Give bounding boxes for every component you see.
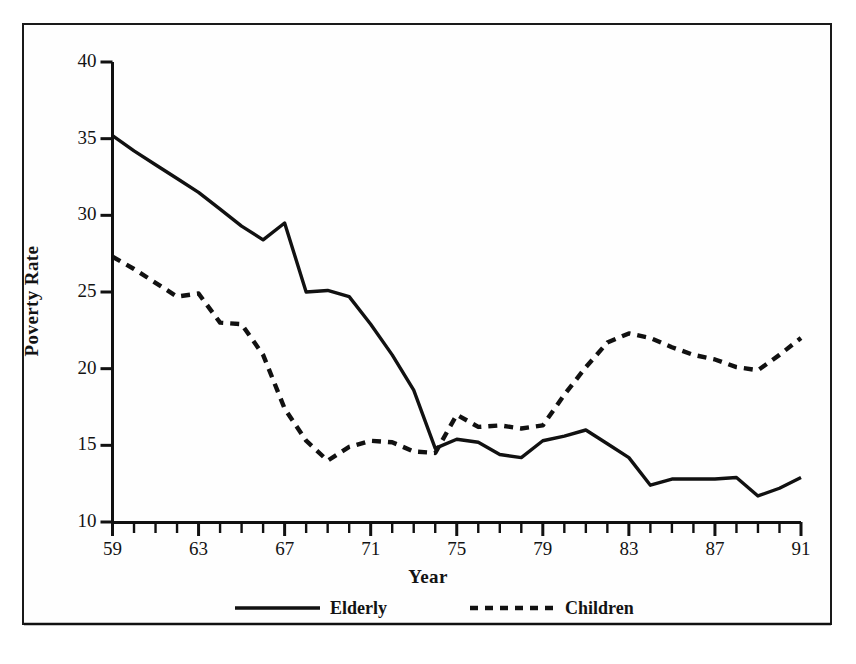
y-axis-ticks: [101, 62, 113, 522]
x-tick-label: 87: [692, 538, 738, 560]
y-tick-label: 15: [53, 433, 97, 455]
x-tick-label: 79: [520, 538, 566, 560]
legend-label-elderly: Elderly: [330, 598, 387, 619]
x-tick-label: 63: [176, 538, 222, 560]
y-axis-label: Poverty Rate: [21, 201, 43, 401]
y-tick-label: 10: [53, 510, 97, 532]
x-tick-label: 91: [778, 538, 824, 560]
x-axis-ticks: [113, 522, 802, 536]
x-axis-label: Year: [0, 566, 856, 588]
data-series-lines: [113, 136, 802, 496]
series-line-elderly: [113, 136, 802, 496]
x-tick-label: 75: [434, 538, 480, 560]
y-tick-label: 25: [53, 280, 97, 302]
x-tick-label: 59: [90, 538, 136, 560]
x-tick-label: 83: [606, 538, 652, 560]
chart-plot-area: [0, 0, 856, 664]
legend-label-children: Children: [565, 598, 634, 619]
x-tick-label: 71: [348, 538, 394, 560]
y-tick-label: 30: [53, 203, 97, 225]
x-tick-label: 67: [262, 538, 308, 560]
axes-lines: [113, 62, 802, 523]
poverty-rate-line-chart: Poverty Rate Year 1015202530354059636771…: [0, 0, 856, 664]
y-tick-label: 20: [53, 357, 97, 379]
y-tick-label: 40: [53, 50, 97, 72]
y-tick-label: 35: [53, 127, 97, 149]
series-line-children: [113, 257, 802, 461]
